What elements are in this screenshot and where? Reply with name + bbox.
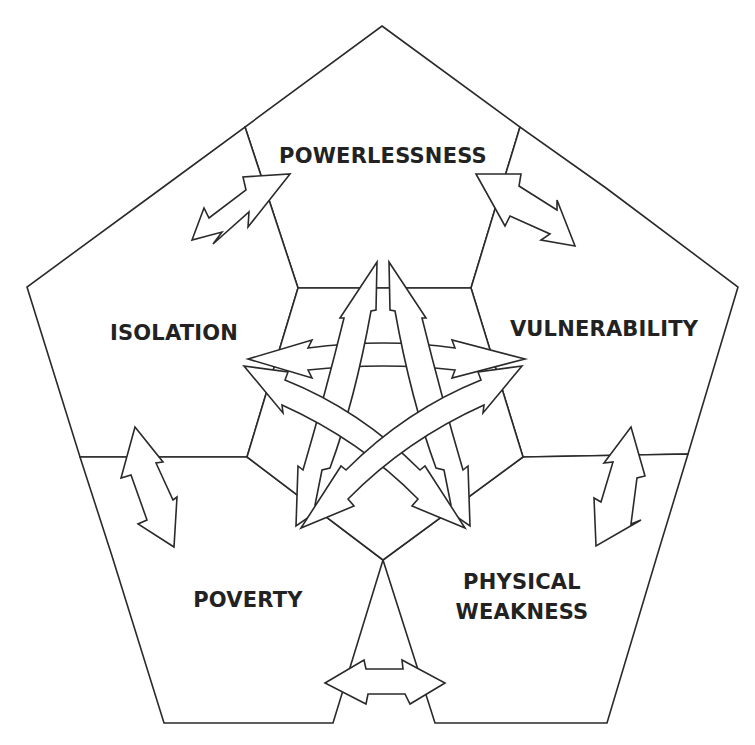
- label-vulnerability: VULNERABILITY: [510, 317, 699, 341]
- deprivation-trap-diagram: POWERLESSNESS ISOLATION VULNERABILITY PO…: [0, 0, 755, 745]
- label-physical-weakness-line1: PHYSICAL: [463, 570, 581, 594]
- label-physical-weakness-line2: WEAKNESS: [456, 600, 589, 624]
- label-isolation: ISOLATION: [110, 321, 238, 345]
- label-poverty: POVERTY: [193, 588, 303, 612]
- label-powerlessness: POWERLESSNESS: [279, 144, 487, 168]
- node-shapes: [27, 26, 738, 723]
